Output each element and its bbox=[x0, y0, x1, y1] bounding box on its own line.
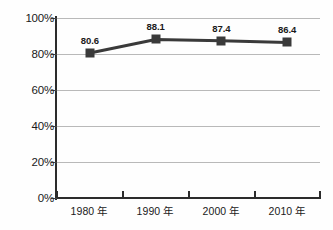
y-axis-label-100: 100% bbox=[8, 13, 54, 25]
x-tick-1 bbox=[122, 191, 124, 198]
x-axis-label-2010: 2010 年 bbox=[254, 203, 320, 218]
gridline-40 bbox=[57, 126, 320, 127]
y-axis-line bbox=[55, 16, 57, 200]
y-axis-label-40: 40% bbox=[8, 121, 54, 133]
data-point-label: 88.1 bbox=[131, 21, 181, 32]
gridline-60 bbox=[57, 90, 320, 91]
y-axis-label-0: 0% bbox=[8, 193, 54, 205]
x-axis-label-1980: 1980 年 bbox=[56, 203, 122, 218]
x-axis-label-2000: 2000 年 bbox=[188, 203, 254, 218]
x-tick-0 bbox=[56, 191, 58, 198]
x-tick-2 bbox=[188, 191, 190, 198]
gridline-20 bbox=[57, 162, 320, 163]
data-point-marker bbox=[151, 35, 160, 44]
gridline-80 bbox=[57, 54, 320, 55]
x-tick-4 bbox=[319, 191, 321, 198]
gridline-100 bbox=[57, 18, 320, 19]
data-point-label: 87.4 bbox=[196, 23, 246, 34]
y-axis-label-80: 80% bbox=[8, 49, 54, 61]
line-chart: 100% 80% 60% 40% 20% 0% 1980 年 1990 年 20… bbox=[0, 0, 333, 230]
x-axis-label-1990: 1990 年 bbox=[122, 203, 188, 218]
data-point-marker bbox=[217, 36, 226, 45]
y-axis-label-60: 60% bbox=[8, 85, 54, 97]
data-point-marker bbox=[85, 48, 94, 57]
data-point-label: 86.4 bbox=[262, 24, 312, 35]
x-tick-3 bbox=[254, 191, 256, 198]
data-point-label: 80.6 bbox=[65, 35, 115, 46]
data-point-marker bbox=[283, 38, 292, 47]
y-axis-label-20: 20% bbox=[8, 157, 54, 169]
